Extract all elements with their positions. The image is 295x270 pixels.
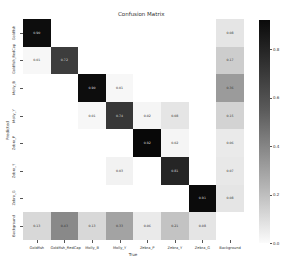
heatmap-cell: 0.15 [216,102,244,130]
heatmap-cell [189,74,217,102]
heatmap-cell: 0.02 [133,102,161,130]
heatmap-cell: 0.17 [216,47,244,75]
heatmap-cell [51,102,79,130]
heatmap-cell [78,19,106,47]
heatmap-cell: 0.43 [51,212,79,240]
heatmap-cell [133,74,161,102]
heatmap-cell: 0.08 [161,102,189,130]
heatmap-cell [189,157,217,185]
colorbar-tick [270,98,272,99]
x-tick-label: Zebra_Y [161,246,189,250]
heatmap-cell [133,47,161,75]
heatmap-cell [51,74,79,102]
heatmap-cell [106,19,134,47]
heatmap-cell: 0.01 [23,47,51,75]
y-tick-label: Zebra_P [12,129,16,157]
y-tick-label: Zebra_Y [12,157,16,185]
x-axis-title: True [118,252,148,257]
y-tick [20,143,23,144]
x-tick [175,240,176,243]
heatmap-cell [23,157,51,185]
heatmap-cell: 0.91 [189,185,217,213]
x-tick-label: Goldfish_RedCap [50,246,78,250]
y-tick-label: Molly_B [12,74,16,102]
x-tick [202,240,203,243]
heatmap-cell: 0.06 [133,212,161,240]
x-tick [64,240,65,243]
colorbar-tick-label: 0.6 [273,95,279,100]
heatmap-cell [161,47,189,75]
heatmap-cell: 0.81 [161,157,189,185]
heatmap-cell [23,129,51,157]
heatmap-grid: 0.900.080.010.720.170.900.010.360.010.74… [23,19,244,240]
heatmap-cell [106,129,134,157]
y-tick [20,198,23,199]
heatmap-cell [189,129,217,157]
x-tick-label: Background [216,246,244,250]
heatmap-cell [106,185,134,213]
colorbar-tick-label: 0.2 [273,192,279,197]
heatmap-cell [51,19,79,47]
heatmap-cell: 0.03 [106,157,134,185]
heatmap-cell: 0.13 [78,212,106,240]
heatmap-cell [189,19,217,47]
x-tick-label: Molly_Y [106,246,134,250]
colorbar-tick-label: 0.0 [273,241,279,246]
x-tick [120,240,121,243]
heatmap-cell: 0.72 [51,47,79,75]
heatmap-cell: 0.06 [216,129,244,157]
heatmap-cell: 0.07 [216,157,244,185]
heatmap-cell [78,157,106,185]
colorbar [259,20,270,243]
heatmap-cell [133,157,161,185]
heatmap-cell [189,102,217,130]
y-tick [20,171,23,172]
colorbar-tick-label: 0.4 [273,144,279,149]
y-tick-label: Background [12,212,16,240]
heatmap-cell: 0.01 [78,102,106,130]
heatmap-cell: 0.21 [161,212,189,240]
x-tick-label: Molly_B [78,246,106,250]
x-tick-label: Zebra_G [188,246,216,250]
colorbar-tick [270,243,272,244]
heatmap-cell [216,212,244,240]
x-tick [92,240,93,243]
heatmap-cell [23,185,51,213]
heatmap-cell [51,129,79,157]
y-tick [20,88,23,89]
y-tick-label: Goldfish [12,19,16,47]
x-tick [230,240,231,243]
y-tick-label: Zebra_G [12,184,16,212]
y-axis-title: Predicted [5,116,10,146]
heatmap-cell [78,129,106,157]
colorbar-tick [270,195,272,196]
heatmap-cell [78,47,106,75]
heatmap-cell [23,74,51,102]
x-tick [147,240,148,243]
colorbar-tick-label: 0.8 [273,47,279,52]
heatmap-cell [23,102,51,130]
y-tick [20,116,23,117]
heatmap-cell [78,185,106,213]
heatmap-cell: 0.92 [133,129,161,157]
colorbar-tick [270,49,272,50]
heatmap-cell [189,47,217,75]
x-tick [37,240,38,243]
y-tick-label: Goldfish_RedCap [12,46,16,74]
y-tick [20,226,23,227]
heatmap-cell [161,74,189,102]
heatmap-cell [133,185,161,213]
heatmap-cell: 0.08 [189,212,217,240]
heatmap-cell: 0.08 [216,19,244,47]
heatmap-cell: 0.01 [106,74,134,102]
heatmap-cell: 0.08 [216,185,244,213]
heatmap-cell: 0.36 [216,74,244,102]
heatmap-cell: 0.02 [161,129,189,157]
heatmap-cell: 0.74 [106,102,134,130]
y-tick [20,33,23,34]
heatmap-cell [161,19,189,47]
heatmap-cell [51,185,79,213]
heatmap-cell [106,47,134,75]
y-tick-label: Molly_Y [12,102,16,130]
heatmap-cell: 0.33 [106,212,134,240]
